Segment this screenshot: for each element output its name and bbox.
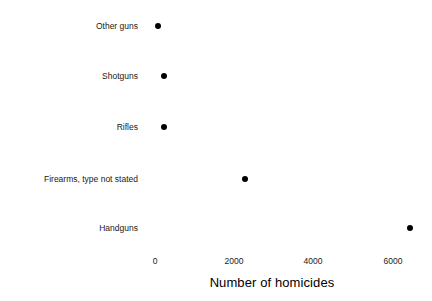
category-label: Shotguns: [102, 71, 138, 81]
x-axis-title: Number of homicides: [155, 275, 389, 290]
x-tick-label: 2000: [225, 256, 244, 266]
category-label: Other guns: [96, 21, 138, 31]
data-point: [242, 176, 248, 182]
data-point: [407, 225, 413, 231]
x-tick-label: 4000: [304, 256, 323, 266]
data-point: [161, 73, 167, 79]
plot-panel: Other gunsShotgunsRiflesFirearms, type n…: [0, 0, 432, 248]
x-tick-label: 6000: [384, 256, 403, 266]
dot-plot-figure: Firearm type Other gunsShotgunsRiflesFir…: [0, 0, 432, 301]
x-tick-label: 0: [153, 256, 158, 266]
category-label: Handguns: [99, 223, 138, 233]
data-point: [161, 124, 167, 130]
category-label: Rifles: [117, 122, 138, 132]
data-point: [155, 23, 161, 29]
category-label: Firearms, type not stated: [44, 174, 138, 184]
